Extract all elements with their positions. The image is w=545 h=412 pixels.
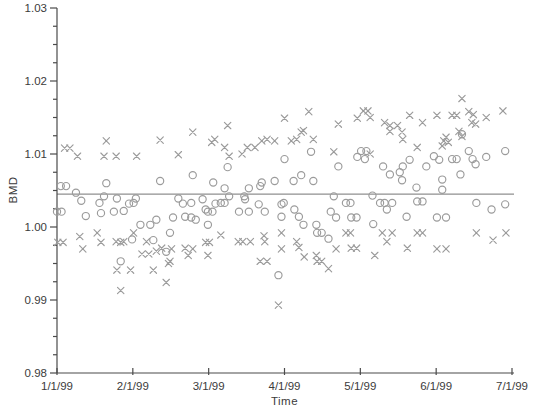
data-point-x — [335, 121, 341, 127]
data-point-x — [296, 244, 302, 250]
data-point-circle — [255, 201, 262, 208]
data-point-x — [490, 237, 496, 243]
x-tick-label: 5/1/99 — [344, 380, 376, 392]
data-point-x — [419, 119, 425, 125]
data-point-x — [483, 114, 489, 120]
data-point-circle — [290, 177, 297, 184]
data-point-x — [182, 245, 188, 251]
data-point-circle — [488, 206, 495, 213]
data-point-circle — [389, 199, 396, 206]
data-point-x — [205, 252, 211, 258]
data-point-circle — [310, 177, 317, 184]
data-point-circle — [128, 236, 135, 243]
data-point-x — [247, 238, 253, 244]
data-point-circle — [457, 171, 464, 178]
data-point-circle — [406, 156, 413, 163]
data-point-x — [310, 136, 316, 142]
data-point-circle — [383, 206, 390, 213]
data-point-x — [354, 115, 360, 121]
data-point-x — [190, 129, 196, 135]
data-point-x — [262, 238, 268, 244]
data-point-circle — [96, 199, 103, 206]
data-point-x — [301, 254, 307, 260]
bmd-scatter-chart: 0.980.991.001.011.021.031/1/992/1/993/1/… — [0, 0, 545, 412]
data-point-x — [163, 279, 169, 285]
data-point-circle — [120, 207, 127, 214]
data-point-x — [118, 287, 124, 293]
data-point-circle — [436, 156, 443, 163]
data-point-circle — [210, 179, 217, 186]
data-point-x — [379, 230, 385, 236]
data-point-x — [353, 245, 359, 251]
y-tick-label: 1.01 — [25, 148, 47, 160]
data-point-x — [399, 129, 405, 135]
data-point-x — [167, 258, 173, 264]
data-point-circle — [353, 214, 360, 221]
data-point-x — [218, 232, 224, 238]
data-point-circle — [97, 210, 104, 217]
data-point-x — [400, 136, 406, 142]
data-point-x — [185, 252, 191, 258]
x-tick-label: 7/1/99 — [496, 380, 528, 392]
data-point-circle — [327, 208, 334, 215]
data-point-circle — [147, 221, 154, 228]
data-point-circle — [502, 201, 509, 208]
data-point-x — [127, 267, 133, 273]
data-point-x — [113, 153, 119, 159]
data-point-circle — [188, 199, 195, 206]
data-point-circle — [275, 272, 282, 279]
data-point-circle — [433, 214, 440, 221]
data-point-x — [226, 153, 232, 159]
data-point-circle — [502, 147, 509, 154]
data-point-x — [347, 230, 353, 236]
data-point-x — [441, 138, 447, 144]
y-tick-label: 1.03 — [25, 2, 47, 14]
data-point-circle — [235, 208, 242, 215]
data-point-x — [325, 265, 331, 271]
data-point-circle — [103, 180, 110, 187]
data-point-x — [367, 114, 373, 120]
data-point-x — [503, 230, 509, 236]
data-point-x — [453, 112, 459, 118]
data-point-x — [221, 144, 227, 150]
data-point-x — [98, 239, 104, 245]
data-point-x — [257, 258, 263, 264]
data-point-circle — [332, 214, 339, 221]
data-point-x — [94, 230, 100, 236]
data-point-x — [414, 230, 420, 236]
data-point-x — [61, 145, 67, 151]
data-point-x — [67, 145, 73, 151]
data-point-x — [278, 230, 284, 236]
data-point-x — [264, 136, 270, 142]
data-point-circle — [117, 258, 124, 265]
data-point-circle — [221, 185, 228, 192]
data-point-x — [77, 233, 83, 239]
data-point-x — [157, 137, 163, 143]
data-point-x — [293, 136, 299, 142]
data-point-x — [384, 238, 390, 244]
data-point-x — [271, 138, 277, 144]
data-point-x — [372, 252, 378, 258]
data-point-circle — [169, 214, 176, 221]
data-point-circle — [430, 153, 437, 160]
data-point-x — [224, 122, 230, 128]
data-point-circle — [278, 213, 285, 220]
data-point-circle — [110, 208, 117, 215]
x-tick-label: 3/1/99 — [193, 380, 225, 392]
data-point-x — [55, 239, 61, 245]
data-point-circle — [153, 216, 160, 223]
data-point-x — [206, 239, 212, 245]
data-point-circle — [370, 220, 377, 227]
data-point-circle — [166, 229, 173, 236]
x-tick-label: 4/1/99 — [269, 380, 301, 392]
data-point-x — [281, 115, 287, 121]
data-point-x — [300, 127, 306, 133]
data-point-x — [143, 238, 149, 244]
data-point-circle — [271, 177, 278, 184]
data-point-circle — [63, 183, 70, 190]
data-point-x — [212, 136, 218, 142]
data-point-circle — [419, 198, 426, 205]
data-point-x — [414, 144, 420, 150]
data-point-circle — [72, 189, 79, 196]
data-point-circle — [78, 197, 85, 204]
